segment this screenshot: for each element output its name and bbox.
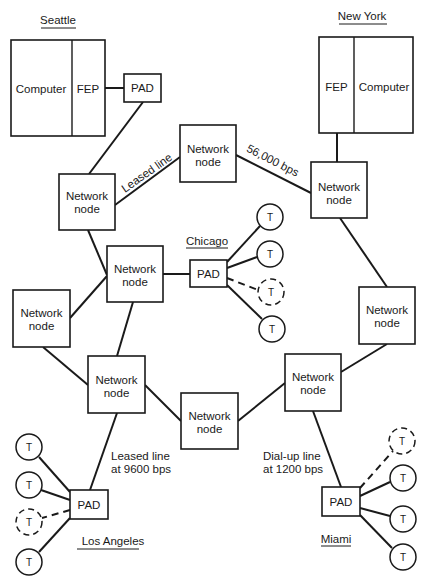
network-node-new-york[interactable]: Network node — [311, 162, 367, 218]
seattle-label: Seattle — [40, 14, 76, 26]
losangeles-pad-label: PAD — [78, 499, 101, 511]
network-node-bottom-center[interactable]: Network node — [181, 393, 238, 449]
network-node-chicago[interactable]: Network node — [107, 246, 163, 302]
terminal-label: T — [26, 442, 32, 453]
network-node-seattle[interactable]: Network node — [59, 174, 115, 230]
network-node-left[interactable]: Network node — [13, 290, 70, 347]
miami-site: PAD Miami T T T T — [321, 428, 416, 570]
link-chicago-pad-t2 — [227, 257, 257, 268]
network-node-top-center[interactable]: Network node — [180, 125, 236, 182]
chicago-site: Chicago PAD T T T T — [186, 204, 285, 342]
miami-terminal-4[interactable]: T — [390, 544, 416, 570]
terminal-label: T — [26, 480, 32, 491]
node-label-line1: Network — [318, 181, 360, 193]
node-label-line1: Network — [20, 307, 62, 319]
dialup-label-miami-line2: at 1200 bps — [263, 463, 323, 475]
miami-pad-label: PAD — [330, 496, 353, 508]
terminal-label: T — [400, 552, 406, 563]
link-miami-pad-t4 — [360, 515, 392, 548]
node-label-line2: node — [197, 423, 223, 435]
terminal-label: T — [400, 473, 406, 484]
newyork-label: New York — [338, 10, 387, 22]
dialup-label-miami-line1: Dial-up line — [263, 450, 321, 462]
leased-line-label-seattle: Leased line — [119, 151, 174, 195]
node-label-line2: node — [74, 203, 100, 215]
terminal-label: T — [269, 324, 275, 335]
seattle-site: Seattle Computer FEP PAD — [11, 14, 161, 136]
link-la-pad-t3 — [42, 510, 70, 518]
node-label-line1: Network — [292, 371, 334, 383]
link-bottom-miami — [238, 383, 285, 421]
link-chicago-left — [70, 276, 107, 318]
losangeles-terminal-4[interactable]: T — [16, 549, 42, 575]
chicago-terminal-4[interactable]: T — [259, 316, 285, 342]
node-label-line1: Network — [95, 374, 137, 386]
terminal-label: T — [267, 212, 273, 223]
node-label-line1: Network — [366, 304, 408, 316]
losangeles-terminal-2[interactable]: T — [16, 472, 42, 498]
link-chicago-pad-t4 — [227, 285, 262, 319]
link-chicago-pad-t1 — [227, 226, 260, 262]
chicago-pad-label: PAD — [197, 268, 220, 280]
miami-terminal-2[interactable]: T — [390, 465, 416, 491]
link-left-la — [43, 347, 88, 385]
chicago-terminal-2[interactable]: T — [257, 241, 283, 267]
node-label-line2: node — [29, 320, 55, 332]
node-label-line1: Network — [188, 410, 230, 422]
terminal-label: T — [268, 287, 274, 298]
chicago-terminal-1[interactable]: T — [257, 204, 283, 230]
losangeles-terminal-3-dialup[interactable]: T — [16, 509, 42, 535]
chicago-terminal-3-dialup[interactable]: T — [258, 279, 284, 305]
miami-terminal-1-dialup[interactable]: T — [389, 428, 415, 454]
node-label-line2: node — [300, 384, 326, 396]
link-miami-node-pad — [313, 411, 341, 487]
chicago-label: Chicago — [186, 235, 228, 247]
network-node-los-angeles[interactable]: Network node — [88, 356, 145, 413]
network-node-miami[interactable]: Network node — [285, 354, 341, 411]
link-la-pad-t1 — [39, 457, 70, 492]
seattle-fep-label: FEP — [77, 83, 100, 95]
leased-line-label-la-line2: at 9600 bps — [111, 463, 171, 475]
seattle-pad-label: PAD — [131, 82, 154, 94]
seattle-computer-label: Computer — [16, 83, 67, 95]
leased-line-label-la-line1: Leased line — [111, 450, 170, 462]
node-label-line2: node — [104, 387, 130, 399]
link-seattle-chicago — [88, 230, 107, 275]
node-label-line2: node — [195, 156, 221, 168]
newyork-computer-label: Computer — [359, 81, 410, 93]
link-newyork-right — [340, 218, 387, 287]
terminal-label: T — [399, 436, 405, 447]
miami-label: Miami — [321, 533, 352, 545]
newyork-fep-label: FEP — [325, 81, 348, 93]
miami-terminal-3[interactable]: T — [390, 506, 416, 532]
node-label-line1: Network — [66, 190, 108, 202]
link-chicago-la — [117, 302, 133, 356]
node-label-line2: node — [374, 317, 400, 329]
losangeles-terminal-1[interactable]: T — [16, 434, 42, 460]
terminal-label: T — [400, 514, 406, 525]
network-node-right[interactable]: Network node — [359, 287, 415, 344]
losangeles-label: Los Angeles — [82, 535, 145, 547]
link-miami-right — [341, 344, 387, 372]
node-label-line2: node — [122, 276, 148, 288]
node-label-line1: Network — [187, 143, 229, 155]
node-label-line2: node — [326, 194, 352, 206]
link-miami-pad-t3 — [360, 508, 390, 516]
node-label-line1: Network — [114, 263, 156, 275]
terminal-label: T — [267, 249, 273, 260]
network-diagram: Seattle Computer FEP PAD New York FEP Co… — [0, 0, 430, 584]
newyork-site: New York FEP Computer — [319, 10, 413, 133]
terminal-label: T — [26, 557, 32, 568]
terminal-label: T — [26, 517, 32, 528]
link-la-pad-t4 — [39, 518, 70, 552]
link-la-bottom — [145, 385, 181, 421]
link-la-pad-t2 — [41, 490, 70, 500]
